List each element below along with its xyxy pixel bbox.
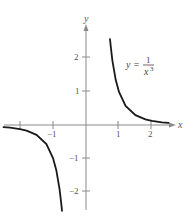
- x-axis-arrow-icon: [169, 123, 176, 128]
- equation-lhs: y =: [125, 59, 140, 70]
- y-axis-label: y: [83, 13, 89, 24]
- y-tick-label--2: −2: [69, 186, 79, 196]
- x-tick-label-2: 2: [148, 129, 153, 139]
- equation-label: y = 1 x 3: [125, 55, 154, 77]
- curve-right-branch: [110, 39, 169, 123]
- x-tick-label--1: −1: [47, 129, 57, 139]
- y-axis-arrow-icon: [84, 24, 89, 31]
- y-tick-label-1: 1: [75, 86, 80, 96]
- curve-left-branch: [4, 127, 63, 211]
- y-tick-label-2: 2: [74, 52, 79, 62]
- equation-denominator: x: [143, 66, 149, 77]
- y-axis: [82, 24, 90, 210]
- chart-svg: y x −1 1 2 2 1 −1 −2 y = 1 x 3: [0, 0, 186, 216]
- x-axis: [4, 121, 176, 129]
- x-axis-label: x: [177, 119, 183, 130]
- y-tick-label--1: −1: [69, 153, 79, 163]
- equation-exponent: 3: [150, 65, 154, 73]
- x-tick-label-1: 1: [116, 129, 121, 139]
- chart: y x −1 1 2 2 1 −1 −2 y = 1 x 3: [0, 0, 186, 216]
- equation-numerator: 1: [146, 55, 151, 65]
